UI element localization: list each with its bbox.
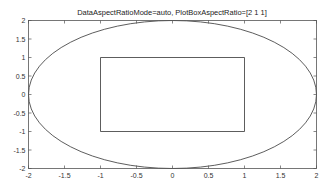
x-tick-label: -2 [25,172,31,179]
x-tick-label: 0 [171,172,175,179]
plot-area [29,21,317,169]
x-tick-label: -1 [97,172,103,179]
x-tick-label: 1.5 [276,172,286,179]
y-tick-label: -2 [19,165,25,172]
x-tick-label: 0.5 [204,172,214,179]
circle-series [29,21,317,169]
x-tick-label: -1.5 [58,172,70,179]
rectangle-series [101,58,245,132]
axes-box [29,21,317,169]
y-tick-label: 1.5 [16,36,26,43]
y-tick-label: -0.5 [13,110,25,117]
y-tick-label: 1 [22,54,26,61]
chart-title: DataAspectRatioMode=auto, PlotBoxAspectR… [77,8,267,17]
figure: DataAspectRatioMode=auto, PlotBoxAspectR… [0,0,335,187]
y-tick-label: -1 [19,128,25,135]
y-tick-label: 2 [22,17,26,24]
y-tick-label: 0 [22,91,26,98]
x-tick-label: 2 [315,172,319,179]
x-axis: -2-1.5-1-0.500.511.52 [25,21,318,179]
x-tick-label: -0.5 [130,172,142,179]
y-tick-label: -1.5 [13,147,25,154]
x-tick-label: 1 [243,172,247,179]
y-tick-label: 0.5 [16,73,26,80]
